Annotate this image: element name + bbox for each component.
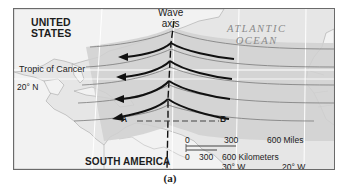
label-wave-line: Wave bbox=[158, 8, 183, 18]
label-states-line: STATES bbox=[31, 28, 71, 39]
scale-miles-300: 300 bbox=[224, 135, 238, 145]
label-wave-axis: Wave axis bbox=[158, 8, 183, 29]
label-point-b: B bbox=[220, 114, 226, 124]
label-atlantic-ocean: ATLANTIC OCEAN bbox=[227, 23, 286, 47]
scale-km-0: 0 bbox=[185, 152, 190, 162]
label-ocean-line: OCEAN bbox=[227, 35, 286, 47]
scale-miles-0: 0 bbox=[185, 135, 190, 145]
scale-miles-600: 600 Miles bbox=[267, 135, 303, 145]
label-tropic-of-cancer: Tropic of Cancer bbox=[19, 64, 85, 74]
label-point-a: A bbox=[121, 114, 127, 124]
label-south-america: SOUTH AMERICA bbox=[85, 156, 170, 167]
label-20w: 20° W bbox=[282, 162, 305, 170]
label-axis-line: axis bbox=[158, 18, 183, 29]
label-30w: 30° W bbox=[222, 162, 245, 170]
label-united-states: UNITED STATES bbox=[31, 17, 71, 39]
scale-km-600: 600 Kilometers bbox=[222, 152, 279, 162]
figure-caption: (a) bbox=[0, 172, 340, 184]
label-20n: 20° N bbox=[17, 82, 38, 92]
label-atlantic-line: ATLANTIC bbox=[227, 23, 286, 35]
scale-km-300: 300 bbox=[199, 152, 213, 162]
map-frame: UNITED STATES Wave axis ATLANTIC OCEAN T… bbox=[13, 8, 335, 170]
